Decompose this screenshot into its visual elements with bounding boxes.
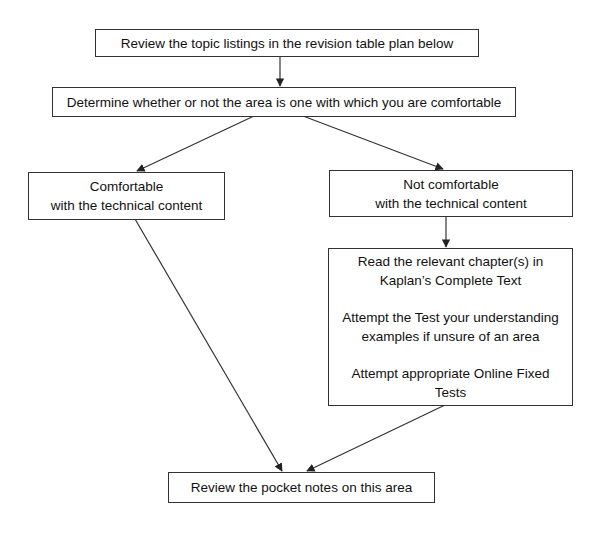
actions-box: Read the relevant chapter(s) in Kaplan’s… xyxy=(328,248,573,406)
actions-read-line1: Read the relevant chapter(s) in xyxy=(358,252,543,271)
actions-online-line2: Tests xyxy=(435,383,467,402)
pocket-notes-box: Review the pocket notes on this area xyxy=(168,472,435,503)
not-comfortable-box: Not comfortable with the technical conte… xyxy=(329,170,573,217)
arrow-comfortable-to-pocket-notes xyxy=(135,219,282,471)
actions-online-line1: Attempt appropriate Online Fixed xyxy=(351,364,549,383)
review-listings-box: Review the topic listings in the revisio… xyxy=(95,29,479,57)
actions-test-line2: examples if unsure of an area xyxy=(362,327,540,346)
arrow-determine-to-not-comfortable xyxy=(303,116,443,169)
not-comfortable-line1: Not comfortable xyxy=(403,175,498,194)
arrow-determine-to-comfortable xyxy=(137,116,254,171)
review-listings-text: Review the topic listings in the revisio… xyxy=(121,34,453,53)
arrow-actions-to-pocket-notes xyxy=(307,405,445,471)
actions-read-line2: Kaplan’s Complete Text xyxy=(380,271,521,290)
comfortable-line1: Comfortable xyxy=(90,177,164,196)
comfortable-line2: with the technical content xyxy=(51,196,203,215)
determine-box: Determine whether or not the area is one… xyxy=(52,87,516,117)
pocket-notes-text: Review the pocket notes on this area xyxy=(191,478,412,497)
actions-test-line1: Attempt the Test your understanding xyxy=(342,308,559,327)
not-comfortable-line2: with the technical content xyxy=(375,194,527,213)
determine-text: Determine whether or not the area is one… xyxy=(67,93,501,112)
comfortable-box: Comfortable with the technical content xyxy=(28,172,225,220)
